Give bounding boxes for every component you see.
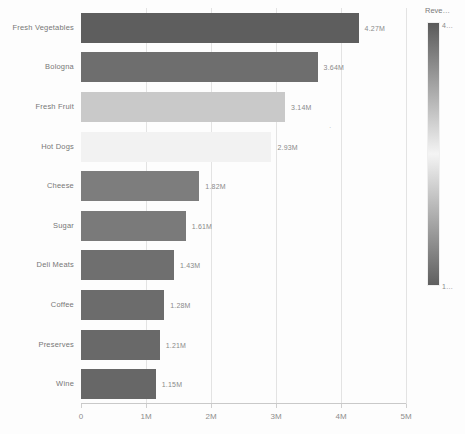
bar-row[interactable]: 1.61M <box>81 211 406 241</box>
bar-value-label: 1.28M <box>170 302 190 309</box>
y-axis-label: Fresh Fruit <box>36 92 74 122</box>
y-axis-label: Preserves <box>38 330 74 360</box>
y-axis-label: Sugar <box>53 211 74 241</box>
bar-row[interactable]: 1.15M <box>81 369 406 399</box>
color-legend: Reve… 4… 1… <box>424 6 465 296</box>
bar-row[interactable]: 2.93M <box>81 132 406 162</box>
y-axis-label: Hot Dogs <box>41 132 74 162</box>
bar-row[interactable]: 1.43M <box>81 250 406 280</box>
x-tick-mark <box>276 404 277 408</box>
x-tick-label: 1M <box>140 412 151 421</box>
bar-row[interactable]: 3.14M <box>81 92 406 122</box>
plot-area: 4.27M3.64M3.14M2.93M1.82M1.61M1.43M1.28M… <box>81 8 406 404</box>
x-tick-mark <box>341 404 342 408</box>
bar-value-label: 1.43M <box>180 262 200 269</box>
bar-value-label: 1.61M <box>192 222 212 229</box>
x-tick-label: 5M <box>400 412 411 421</box>
bar-chart: Fresh VegetablesBolognaFresh FruitHot Do… <box>0 0 465 434</box>
bar-value-label: 2.93M <box>277 143 297 150</box>
y-axis-label: Bologna <box>45 52 74 82</box>
bar[interactable] <box>81 171 199 201</box>
x-tick-mark <box>211 404 212 408</box>
legend-title: Reve… <box>425 6 450 15</box>
bar-value-label: 1.21M <box>166 341 186 348</box>
bar[interactable] <box>81 13 359 43</box>
x-tick-label: 0 <box>79 412 83 421</box>
y-axis-label: Deli Meats <box>37 250 74 280</box>
x-tick-label: 2M <box>205 412 216 421</box>
bar-row[interactable]: 1.82M <box>81 171 406 201</box>
y-axis-label: Fresh Vegetables <box>12 13 74 43</box>
y-axis-label: Wine <box>56 369 74 399</box>
legend-max-label: 4… <box>442 22 453 29</box>
bar-value-label: 4.27M <box>365 24 385 31</box>
x-tick-label: 3M <box>270 412 281 421</box>
bar[interactable] <box>81 52 318 82</box>
x-tick-mark <box>406 404 407 408</box>
bar-row[interactable]: 1.28M <box>81 290 406 320</box>
legend-min-label: 1… <box>442 283 453 290</box>
bar[interactable] <box>81 132 271 162</box>
stray-tick-mark: · <box>329 124 331 131</box>
bar[interactable] <box>81 369 156 399</box>
gridline <box>406 8 407 404</box>
bar-row[interactable]: 1.21M <box>81 330 406 360</box>
bar[interactable] <box>81 330 160 360</box>
x-tick-mark <box>146 404 147 408</box>
x-axis-ticks: 01M2M3M4M5M <box>81 404 406 428</box>
bar-value-label: 3.64M <box>324 64 344 71</box>
bar[interactable] <box>81 250 174 280</box>
y-axis-category-labels: Fresh VegetablesBolognaFresh FruitHot Do… <box>0 8 74 404</box>
bar[interactable] <box>81 290 164 320</box>
bar-value-label: 1.82M <box>205 183 225 190</box>
y-axis-label: Coffee <box>51 290 74 320</box>
bar[interactable] <box>81 211 186 241</box>
bar-series: 4.27M3.64M3.14M2.93M1.82M1.61M1.43M1.28M… <box>81 8 406 404</box>
bar-row[interactable]: 4.27M <box>81 13 406 43</box>
y-axis-label: Cheese <box>47 171 74 201</box>
x-tick-label: 4M <box>335 412 346 421</box>
bar-value-label: 1.15M <box>162 381 182 388</box>
bar-row[interactable]: 3.64M <box>81 52 406 82</box>
x-tick-mark <box>81 404 82 408</box>
legend-gradient-ramp <box>427 22 440 286</box>
bar[interactable] <box>81 92 285 122</box>
bar-value-label: 3.14M <box>291 104 311 111</box>
